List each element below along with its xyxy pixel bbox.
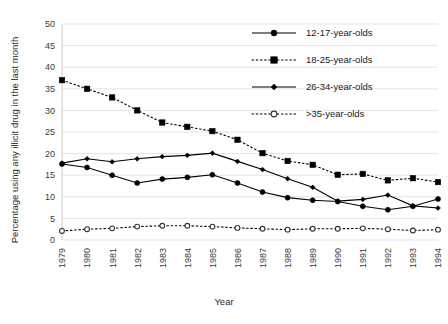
data-point-marker [410, 176, 415, 181]
line-chart: 05101520253035404550 1979198019811982198… [0, 0, 448, 324]
y-tick-label: 45 [45, 41, 55, 51]
series-line [62, 153, 438, 208]
data-point-marker [435, 179, 440, 184]
data-point-marker [436, 206, 441, 211]
data-point-marker [310, 226, 315, 231]
data-point-marker [110, 173, 115, 178]
series-line [62, 80, 438, 182]
data-point-marker [160, 120, 165, 125]
data-point-marker [360, 204, 365, 209]
data-point-marker [271, 57, 277, 63]
legend-item-label: >35-year-olds [306, 108, 365, 119]
series-line [62, 164, 438, 210]
data-point-marker [135, 180, 140, 185]
data-point-marker [110, 159, 115, 164]
data-point-marker [160, 223, 165, 228]
legend-item-label: 18-25-year-olds [306, 54, 373, 65]
data-point-marker [260, 167, 265, 172]
data-point-marker [260, 226, 265, 231]
data-point-marker [160, 177, 165, 182]
series-lines [62, 80, 438, 231]
data-point-marker [185, 175, 190, 180]
data-point-marker [135, 224, 140, 229]
y-tick-label: 5 [50, 214, 55, 224]
data-point-marker [385, 227, 390, 232]
series-line [62, 226, 438, 231]
data-point-marker [109, 95, 114, 100]
data-point-marker [360, 197, 365, 202]
data-point-marker [285, 227, 290, 232]
y-tick-label: 30 [45, 106, 55, 116]
x-tick-label: 1988 [283, 248, 293, 268]
data-point-marker [335, 172, 340, 177]
x-axis-title: Year [214, 296, 233, 307]
data-point-marker [310, 162, 315, 167]
data-point-marker [260, 190, 265, 195]
y-tick-label: 10 [45, 192, 55, 202]
data-point-marker [235, 180, 240, 185]
data-point-marker [260, 150, 265, 155]
data-point-marker [285, 158, 290, 163]
data-point-marker [235, 137, 240, 142]
data-point-marker [335, 226, 340, 231]
data-point-marker [385, 207, 390, 212]
data-point-marker [59, 77, 64, 82]
data-point-marker [210, 224, 215, 229]
x-tick-label: 1989 [308, 248, 318, 268]
data-point-marker [210, 172, 215, 177]
x-tick-label: 1993 [408, 248, 418, 268]
data-point-marker [310, 198, 315, 203]
data-point-marker [285, 176, 290, 181]
data-point-marker [210, 151, 215, 156]
y-tick-label: 50 [45, 19, 55, 29]
data-point-marker [185, 124, 190, 129]
x-tick-label: 1979 [57, 248, 67, 268]
data-point-marker [135, 108, 140, 113]
legend-item-label: 26-34-year-olds [306, 81, 373, 92]
data-point-marker [436, 227, 441, 232]
data-point-marker [135, 156, 140, 161]
y-tick-label: 20 [45, 149, 55, 159]
data-point-marker [235, 226, 240, 231]
x-tick-label: 1985 [208, 248, 218, 268]
x-tick-label: 1987 [258, 248, 268, 268]
data-point-marker [271, 111, 277, 117]
x-tick-label: 1991 [358, 248, 368, 268]
data-point-marker [210, 128, 215, 133]
data-point-marker [385, 178, 390, 183]
x-tick-label: 1984 [183, 248, 193, 268]
data-point-marker [185, 223, 190, 228]
chart-container: 05101520253035404550 1979198019811982198… [0, 0, 448, 324]
y-tick-label: 15 [45, 170, 55, 180]
y-tick-label: 35 [45, 84, 55, 94]
data-point-marker [60, 229, 65, 234]
x-tick-label: 1982 [133, 248, 143, 268]
data-point-marker [85, 227, 90, 232]
y-tick-labels: 05101520253035404550 [45, 19, 55, 245]
gridlines [62, 24, 438, 240]
legend: 12-17-year-olds18-25-year-olds26-34-year… [252, 27, 373, 119]
data-point-marker [160, 154, 165, 159]
data-point-marker [271, 30, 277, 36]
x-tick-label: 1981 [108, 248, 118, 268]
series-markers [59, 77, 440, 233]
data-point-marker [110, 226, 115, 231]
data-point-marker [85, 165, 90, 170]
data-point-marker [436, 196, 441, 201]
x-tick-label: 1983 [158, 248, 168, 268]
data-point-marker [85, 156, 90, 161]
data-point-marker [360, 171, 365, 176]
y-tick-label: 25 [45, 127, 55, 137]
x-tick-label: 1990 [333, 248, 343, 268]
y-tick-label: 40 [45, 62, 55, 72]
data-point-marker [285, 195, 290, 200]
x-tick-label: 1980 [82, 248, 92, 268]
data-point-marker [310, 185, 315, 190]
data-point-marker [235, 159, 240, 164]
y-axis-title: Percentage using any illicit drug in the… [9, 37, 20, 243]
y-tick-label: 0 [50, 235, 55, 245]
legend-item-label: 12-17-year-olds [306, 27, 373, 38]
data-point-marker [84, 86, 89, 91]
x-tick-label: 1986 [233, 248, 243, 268]
x-tick-label: 1994 [433, 248, 443, 268]
